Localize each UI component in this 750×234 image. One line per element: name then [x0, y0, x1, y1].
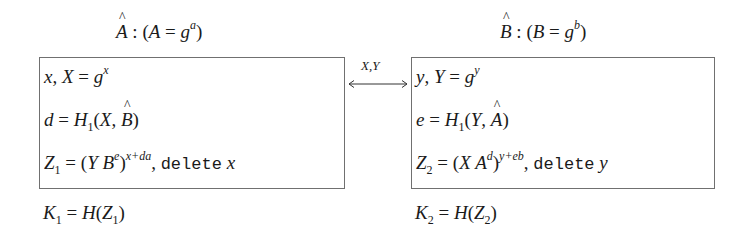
- party-b-session-key: K2 = H(Z2): [415, 202, 497, 224]
- arg2-hat: B: [121, 109, 133, 131]
- key-arg-sub: 1: [113, 213, 119, 227]
- arg2-hat: A: [491, 109, 503, 131]
- party-a-step-3: Z1 = (Y Be)x+da, delete x: [44, 152, 235, 174]
- party-b-step-3: Z2 = (X Ad)y+eb, delete y: [416, 152, 608, 174]
- key-lhs: K: [415, 202, 428, 223]
- shared-secret: Z: [44, 152, 55, 173]
- party-b-title: B : (B = gb): [500, 21, 586, 43]
- ephemeral-secret: x: [44, 66, 52, 87]
- generator: g: [181, 21, 191, 42]
- hash-fn: H: [74, 109, 88, 130]
- key-sub: 1: [56, 213, 62, 227]
- deleted-var: x: [227, 152, 235, 173]
- lhs: e: [416, 109, 424, 130]
- exp: x: [103, 63, 108, 77]
- delete-keyword: delete: [533, 155, 594, 174]
- lhs: d: [44, 109, 54, 130]
- exp: y: [474, 63, 479, 77]
- sub: 1: [55, 163, 61, 177]
- hash-fn: H: [82, 202, 96, 223]
- party-a-pubkey: A: [149, 21, 161, 42]
- deleted-var: y: [599, 152, 607, 173]
- hash-sub: 1: [87, 120, 93, 134]
- party-b-box: y, Y = gy e = H1(Y, A) Z2 = (X Ad)y+eb, …: [411, 57, 715, 189]
- outer-exp: x+da: [126, 149, 151, 163]
- generator: g: [465, 66, 475, 87]
- party-a-step-1: x, X = gx: [44, 66, 109, 88]
- ephemeral-secret: y: [416, 66, 424, 87]
- hash-fn: H: [445, 109, 459, 130]
- party-a-box: x, X = gx d = H1(X, B) Z1 = (Y Be)x+da, …: [39, 57, 345, 189]
- arg1: X: [100, 109, 112, 130]
- term: Y B: [87, 152, 114, 173]
- ephemeral-public: Y: [434, 66, 445, 87]
- double-arrow-icon: [347, 79, 409, 89]
- arg1: Y: [471, 109, 482, 130]
- outer-exp: y+eb: [499, 149, 524, 163]
- party-a-title: A : (A = ga): [116, 21, 202, 43]
- party-b-step-1: y, Y = gy: [416, 66, 480, 88]
- term: X A: [459, 152, 487, 173]
- party-b-pubkey: B: [533, 21, 545, 42]
- key-sub: 2: [428, 213, 434, 227]
- party-a-session-key: K1 = H(Z1): [43, 202, 125, 224]
- generator: g: [94, 66, 104, 87]
- party-a-step-2: d = H1(X, B): [44, 109, 139, 131]
- party-a-hat-symbol: A: [116, 21, 128, 43]
- key-arg: Z: [102, 202, 113, 223]
- shared-secret: Z: [416, 152, 427, 173]
- inner-exp: e: [114, 149, 119, 163]
- generator: g: [565, 21, 575, 42]
- hash-sub: 1: [458, 120, 464, 134]
- delete-keyword: delete: [161, 155, 222, 174]
- inner-exp: d: [487, 149, 493, 163]
- key-lhs: K: [43, 202, 56, 223]
- party-b-step-2: e = H1(Y, A): [416, 109, 509, 131]
- party-b-exp: b: [574, 18, 580, 32]
- exchange-label: X,Y: [361, 58, 379, 74]
- ephemeral-public: X: [62, 66, 74, 87]
- key-arg-sub: 2: [485, 213, 491, 227]
- sub: 2: [427, 163, 433, 177]
- party-b-hat-symbol: B: [500, 21, 512, 43]
- party-a-exp: a: [190, 18, 196, 32]
- key-arg: Z: [474, 202, 485, 223]
- hash-fn: H: [454, 202, 468, 223]
